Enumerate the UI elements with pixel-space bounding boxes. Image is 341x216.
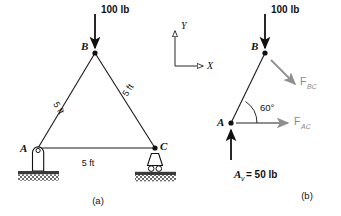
node-label-a-a: A xyxy=(19,142,27,154)
node-label-a-b: A xyxy=(216,116,224,128)
member-bc xyxy=(95,53,155,148)
dim-label-ab: 5 ft xyxy=(51,100,66,116)
reaction-label-av: A v = 50 lb xyxy=(233,168,277,182)
load-label-b: 100 lb xyxy=(271,4,299,15)
joint-c-a xyxy=(152,145,157,150)
angle-label-60: 60° xyxy=(260,102,275,113)
force-label-fbc-sub: BC xyxy=(307,83,318,90)
joint-b-a xyxy=(92,50,97,55)
pin-support-a xyxy=(33,147,44,171)
force-label-fac-sub: AC xyxy=(300,123,312,130)
reaction-label-av-sub: v xyxy=(241,175,245,182)
force-label-fbc: F BC xyxy=(300,75,318,90)
x-axis-label: X xyxy=(206,60,214,71)
force-arrow-fbc xyxy=(271,60,295,84)
y-axis-label: Y xyxy=(181,20,188,31)
dim-label-bc: 5 ft xyxy=(120,82,135,98)
angle-arc-60 xyxy=(246,102,258,124)
figure-canvas: 100 lb B A C 5 ft 5 ft 5 ft (a) Y X xyxy=(0,0,341,216)
node-label-b-a: B xyxy=(80,40,88,52)
panel-a: 100 lb B A C 5 ft 5 ft 5 ft (a) xyxy=(18,4,176,206)
dim-label-ac: 5 ft xyxy=(82,158,95,168)
force-label-fbc-base: F xyxy=(300,75,306,87)
force-label-fac: F AC xyxy=(294,115,312,130)
node-label-c-a: C xyxy=(160,140,168,152)
panel-b: 100 lb B A F BC F AC 60° A v = 50 lb (b) xyxy=(216,4,318,201)
reaction-label-av-value: = 50 lb xyxy=(246,169,277,180)
roller-support-c xyxy=(135,154,176,182)
force-label-fac-base: F xyxy=(294,115,300,127)
caption-b: (b) xyxy=(301,190,313,201)
joint-b-b xyxy=(262,50,267,55)
engineering-figure: 100 lb B A C 5 ft 5 ft 5 ft (a) Y X xyxy=(0,0,341,216)
load-label-a: 100 lb xyxy=(101,4,129,15)
joint-a-b xyxy=(228,120,233,125)
node-label-b-b: B xyxy=(250,40,258,52)
truss-members-a xyxy=(38,53,155,148)
caption-a: (a) xyxy=(92,195,104,206)
ground-a xyxy=(18,171,59,181)
coordinate-axes: Y X xyxy=(175,20,214,71)
member-ab xyxy=(38,53,95,148)
